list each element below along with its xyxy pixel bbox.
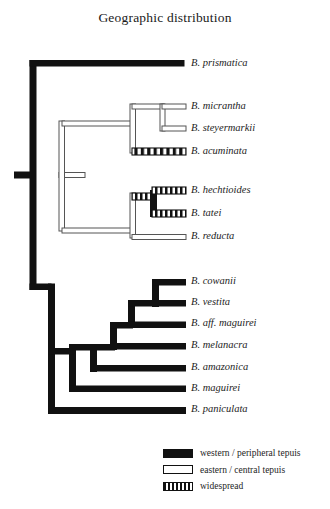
legend-label-eastern: eastern / central tepuis: [200, 465, 285, 475]
tip-label-paniculata: B. paniculata: [191, 404, 248, 415]
phylogenetic-tree: [0, 0, 330, 509]
tip-label-vestita: B. vestita: [191, 297, 230, 308]
branches-eastern-clade: [59, 104, 186, 240]
legend-swatch-eastern: [163, 465, 193, 474]
legend-swatch-western: [163, 449, 193, 458]
tip-label-acuminata: B. acuminata: [191, 146, 247, 157]
tip-label-reducta: B. reducta: [191, 231, 234, 242]
legend-item-western: western / peripheral tepuis: [163, 446, 323, 460]
tip-label-micrantha: B. micrantha: [191, 101, 246, 112]
tip-label-aff-maguirei: B. aff. maguirei: [191, 318, 257, 329]
tip-label-hechtioides: B. hechtioides: [191, 185, 250, 196]
legend-item-widespread: widespread: [163, 479, 323, 493]
legend-label-western: western / peripheral tepuis: [200, 448, 301, 458]
tip-label-melanacra: B. melanacra: [191, 340, 248, 351]
tip-label-cowanii: B. cowanii: [191, 276, 236, 287]
tip-label-steyermarkii: B. steyermarkii: [191, 123, 255, 134]
legend-swatch-widespread: [163, 482, 193, 491]
branches-black-backbone: [14, 60, 185, 290]
tip-label-maguirei: B. maguirei: [191, 383, 240, 394]
tip-label-tatei: B. tatei: [191, 208, 221, 219]
legend-label-widespread: widespread: [200, 481, 243, 491]
tip-label-prismatica: B. prismatica: [191, 58, 248, 69]
tip-label-amazonica: B. amazonica: [191, 362, 248, 373]
legend-item-eastern: eastern / central tepuis: [163, 463, 323, 477]
legend: western / peripheral tepuis eastern / ce…: [163, 446, 323, 496]
branches-western-clade: [48, 279, 186, 414]
